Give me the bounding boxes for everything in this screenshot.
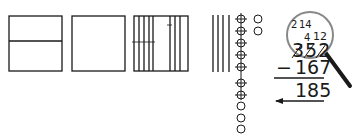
operator: − — [276, 56, 292, 78]
ones-units-crossed — [235, 13, 247, 133]
hundreds-flat-decomposed — [132, 16, 188, 71]
tens-rods — [213, 15, 229, 72]
subtraction-diagram: 2 14 4 12 352 − 167 185 — [0, 0, 358, 136]
result: 185 — [295, 79, 331, 101]
hundreds-flat-split — [9, 16, 62, 71]
subtrahend: 167 — [295, 56, 331, 78]
regroup-tens: 14 — [299, 19, 312, 30]
ones-units-remaining — [254, 15, 262, 35]
hundreds-flat-whole — [72, 16, 125, 71]
regroup-hundreds: 2 — [291, 19, 297, 30]
